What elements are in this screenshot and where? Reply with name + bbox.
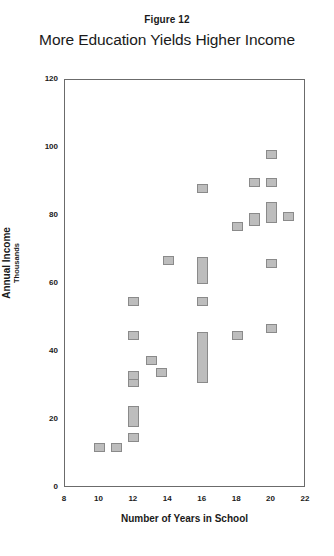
x-axis-title: Number of Years in School: [64, 513, 305, 524]
y-axis-title: Annual Income: [1, 183, 13, 343]
x-tick-label: 14: [152, 495, 182, 503]
figure-number-label: Figure 12: [0, 14, 334, 25]
data-point-marker: [197, 332, 208, 383]
y-axis-title-group: Annual Income Thousands: [1, 183, 35, 343]
data-point-marker: [266, 150, 277, 159]
x-tick-label: 8: [49, 495, 79, 503]
data-point-marker: [156, 368, 167, 377]
data-point-marker: [266, 178, 277, 187]
x-tick-label: 16: [187, 495, 217, 503]
data-point-marker: [128, 297, 139, 306]
data-point-marker: [111, 443, 122, 452]
y-tick-label: 60: [18, 279, 58, 287]
y-tick-label: 20: [18, 415, 58, 423]
x-tick-label: 18: [221, 495, 251, 503]
data-point-marker: [283, 212, 294, 221]
x-tick-label: 12: [118, 495, 148, 503]
figure-title: More Education Yields Higher Income: [0, 31, 334, 49]
plot-area: [64, 79, 305, 487]
y-tick-label: 120: [18, 75, 58, 83]
data-point-marker: [128, 371, 139, 380]
data-point-marker: [128, 433, 139, 442]
data-point-marker: [128, 331, 139, 340]
x-tick-label: 10: [83, 495, 113, 503]
data-point-marker: [249, 213, 260, 227]
x-tick-label: 20: [256, 495, 286, 503]
data-point-marker: [232, 222, 243, 231]
data-point-marker: [197, 297, 208, 306]
x-tick-label: 22: [290, 495, 320, 503]
data-point-marker: [197, 184, 208, 193]
y-tick-label: 0: [18, 483, 58, 491]
data-point-marker: [266, 202, 277, 222]
figure-container: Figure 12 More Education Yields Higher I…: [0, 0, 334, 556]
y-tick-label: 100: [18, 143, 58, 151]
data-point-marker: [232, 331, 243, 340]
data-point-marker: [128, 406, 139, 426]
data-point-marker: [266, 324, 277, 333]
y-axis-units-label: Thousands: [13, 183, 22, 343]
data-point-marker: [249, 178, 260, 187]
y-tick-label: 80: [18, 211, 58, 219]
data-point-marker: [163, 256, 174, 265]
data-point-marker: [146, 356, 157, 365]
data-point-marker: [94, 443, 105, 452]
data-point-marker: [197, 257, 208, 284]
data-point-marker: [266, 259, 277, 268]
y-tick-label: 40: [18, 347, 58, 355]
